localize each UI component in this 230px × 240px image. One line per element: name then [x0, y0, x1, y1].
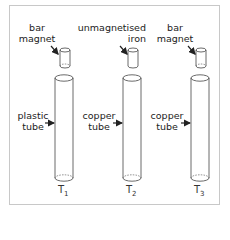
copper-tube	[123, 75, 141, 181]
plastic-tube	[55, 75, 73, 181]
object-label-t1: bar magnet	[16, 22, 58, 44]
tube-id-t1: T1	[58, 184, 69, 198]
bar-magnet-cylinder	[60, 48, 70, 68]
setup-t2	[113, 46, 141, 181]
object-label-t2: unmagnetised iron	[76, 22, 146, 44]
tube-label-t2: copper tube	[82, 110, 116, 132]
object-arrow	[120, 46, 127, 54]
object-arrow	[51, 46, 58, 54]
bar-magnet-cylinder	[196, 48, 206, 68]
iron-cylinder	[128, 48, 138, 68]
tube-label-t3: copper tube	[150, 110, 184, 132]
tube-id-t2: T2	[126, 184, 137, 198]
setup-t3	[181, 46, 209, 181]
object-arrow	[188, 46, 195, 54]
tube-label-t1: plastic tube	[16, 110, 50, 132]
copper-tube	[191, 75, 209, 181]
object-label-t3: bar magnet	[154, 22, 196, 44]
tube-id-t3: T3	[194, 184, 205, 198]
